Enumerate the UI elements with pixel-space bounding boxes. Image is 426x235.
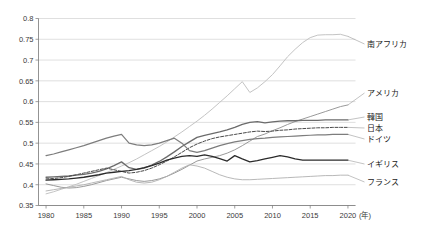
y-tick-label: 0.5 — [23, 139, 33, 148]
axis-tick-marks — [36, 19, 348, 209]
line-chart: 0.350.40.450.50.550.60.650.70.750.8 1980… — [0, 0, 426, 235]
y-tick-label: 0.4 — [23, 181, 33, 190]
series-label-日本: 日本 — [367, 123, 383, 133]
series-leader-0 — [348, 36, 365, 44]
series-label-leaders — [348, 36, 365, 182]
x-tick-label: 2015 — [302, 211, 319, 220]
y-axis-tick-labels: 0.350.40.450.50.550.60.650.70.750.8 — [19, 14, 34, 210]
x-tick-label: 2005 — [226, 211, 243, 220]
x-tick-label: 2020 — [340, 211, 357, 220]
series-line-5 — [46, 155, 348, 180]
series-label-韓国: 韓国 — [367, 112, 383, 122]
series-label-アメリカ: アメリカ — [367, 89, 399, 98]
x-tick-label: 2010 — [264, 211, 281, 220]
x-tick-label: 1980 — [38, 211, 55, 220]
x-axis-unit-label: (年) — [359, 210, 371, 220]
series-leader-4 — [348, 134, 365, 139]
y-tick-label: 0.8 — [23, 14, 33, 23]
series-label-イギリス: イギリス — [367, 160, 399, 169]
series-leader-1 — [348, 93, 365, 105]
y-tick-label: 0.6 — [23, 97, 33, 106]
x-tick-label: 1995 — [151, 211, 168, 220]
y-tick-label: 0.35 — [19, 201, 34, 210]
series-labels: 南アフリカアメリカ韓国日本ドイツイギリスフランス — [367, 39, 407, 187]
series-leader-2 — [348, 117, 365, 120]
series-label-フランス: フランス — [367, 178, 399, 187]
series-label-ドイツ: ドイツ — [367, 135, 391, 144]
series-leader-6 — [348, 175, 365, 182]
x-tick-label: 1985 — [75, 211, 92, 220]
y-tick-label: 0.55 — [19, 118, 34, 127]
series-line-0 — [46, 34, 348, 194]
line-chart-container: 0.350.40.450.50.550.60.650.70.750.8 1980… — [0, 0, 426, 235]
x-tick-label: 1990 — [113, 211, 130, 220]
y-tick-label: 0.65 — [19, 77, 34, 86]
series-label-南アフリカ: 南アフリカ — [367, 39, 407, 49]
series-lines — [46, 34, 348, 194]
series-leader-5 — [348, 160, 365, 164]
y-tick-label: 0.75 — [19, 35, 34, 44]
x-axis-tick-labels: 198019851990199520002005201020152020 — [38, 211, 357, 220]
series-leader-3 — [348, 127, 365, 128]
y-tick-label: 0.7 — [23, 56, 33, 65]
series-line-6 — [46, 165, 348, 191]
y-tick-label: 0.45 — [19, 160, 34, 169]
x-tick-label: 2000 — [189, 211, 206, 220]
